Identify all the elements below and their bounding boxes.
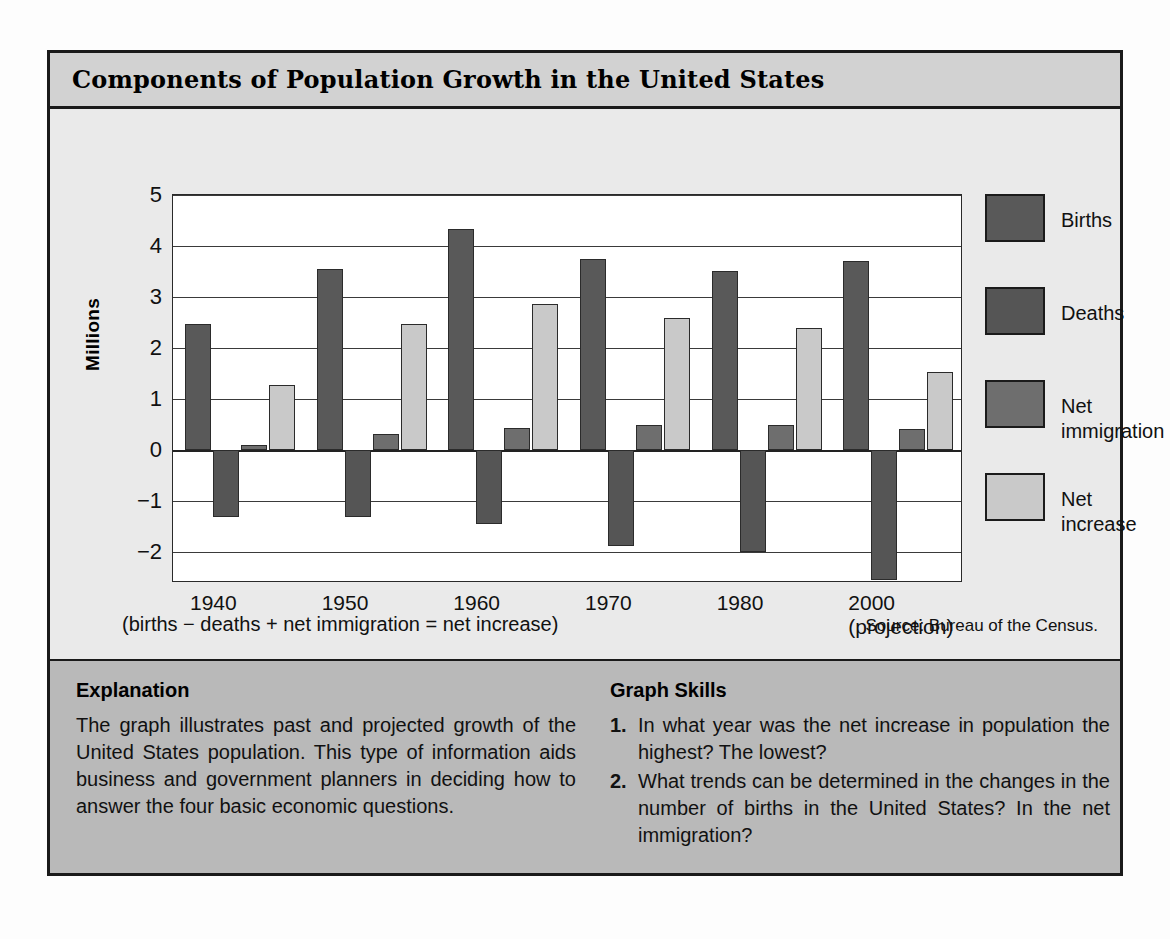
y-axis-tick-label: −2 [137,539,162,565]
legend-swatch-icon [985,194,1045,242]
bar-net-immigration [768,425,794,451]
y-axis-tick-label: −1 [137,488,162,514]
formula-note: (births − deaths + net immigration = net… [122,613,558,636]
legend-label: Net immigration [1061,394,1164,444]
source-note: Source: Bureau of the Census. [866,616,1098,636]
legend-item-deaths[interactable]: Deaths [985,287,1165,380]
bar-births [843,261,869,450]
page-title: Components of Population Growth in the U… [50,65,824,94]
graph-skills-question: 2.What trends can be determined in the c… [610,768,1110,849]
bar-group [843,195,953,581]
bar-net-immigration [899,429,925,450]
x-axis-tick-label: 1950 [322,591,369,615]
y-axis-tick-label: 5 [150,182,162,208]
legend-item-births[interactable]: Births [985,194,1165,287]
x-axis-tick-label: 1970 [585,591,632,615]
bar-net-increase [269,385,295,450]
chart-region: Millions 543210−1−2 19401950196019701980… [50,109,1120,659]
graph-skills-column: Graph Skills 1.In what year was the net … [610,679,1110,851]
bar-group [317,195,427,581]
bar-deaths [345,450,371,517]
bar-births [448,229,474,450]
x-axis-tick-label: 1980 [717,591,764,615]
plot-area: 543210−1−2 [172,194,962,582]
bar-births [712,271,738,451]
question-text: In what year was the net increase in pop… [638,714,1110,763]
legend-item-net-immigration[interactable]: Net immigration [985,380,1165,473]
y-axis-tick-label: 1 [150,386,162,412]
card-title-bar: Components of Population Growth in the U… [50,53,1120,109]
graph-card: Components of Population Growth in the U… [47,50,1123,876]
graph-skills-heading: Graph Skills [610,679,1110,702]
graph-skills-question: 1.In what year was the net increase in p… [610,712,1110,766]
explanation-body: The graph illustrates past and projected… [76,712,576,820]
bar-deaths [740,450,766,552]
explanation-heading: Explanation [76,679,576,702]
question-number: 2. [610,768,627,795]
y-axis-tick-label: 4 [150,233,162,259]
legend-label: Net increase [1061,487,1137,537]
bar-net-immigration [504,428,530,450]
bar-group [580,195,690,581]
y-axis-tick-label: 0 [150,437,162,463]
bar-deaths [871,450,897,580]
bar-group [448,195,558,581]
y-axis-tick-label: 3 [150,284,162,310]
legend-swatch-icon [985,380,1045,428]
bottom-panel: Explanation The graph illustrates past a… [50,659,1120,873]
question-number: 1. [610,712,627,739]
legend-label: Births [1061,208,1112,233]
legend-label: Deaths [1061,301,1124,326]
legend-swatch-icon [985,287,1045,335]
chart-legend: BirthsDeathsNet immigrationNet increase [985,194,1165,566]
x-axis-tick-label: 1940 [190,591,237,615]
bar-deaths [213,450,239,516]
bar-net-immigration [241,445,267,450]
y-axis-label: Millions [82,298,104,371]
x-axis-tick-label: 1960 [453,591,500,615]
bar-net-increase [927,372,953,450]
bar-births [185,324,211,450]
bar-net-increase [796,328,822,451]
question-text: What trends can be determined in the cha… [638,770,1110,846]
page-root: Components of Population Growth in the U… [0,0,1170,939]
bar-net-increase [532,304,558,451]
bar-births [580,259,606,450]
graph-skills-questions: 1.In what year was the net increase in p… [610,712,1110,849]
legend-item-net-increase[interactable]: Net increase [985,473,1165,566]
bar-deaths [608,450,634,546]
bar-group [185,195,295,581]
bar-deaths [476,450,502,524]
legend-swatch-icon [985,473,1045,521]
bar-net-immigration [373,434,399,450]
bar-net-increase [664,318,690,451]
bar-group [712,195,822,581]
explanation-column: Explanation The graph illustrates past a… [76,679,576,820]
bar-net-increase [401,324,427,450]
bar-net-immigration [636,425,662,451]
y-axis-tick-label: 2 [150,335,162,361]
bar-births [317,269,343,450]
